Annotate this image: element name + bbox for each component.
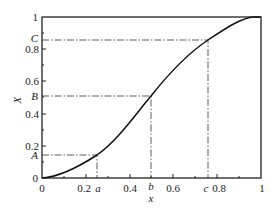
guide-b-B xyxy=(42,96,151,178)
label-C: C xyxy=(31,32,39,44)
y-tick-1: 1 xyxy=(33,11,39,23)
label-A: A xyxy=(30,149,38,161)
guide-a-A xyxy=(42,155,97,178)
x-axis-title: x xyxy=(148,192,154,204)
x-tick-0.4: 0.4 xyxy=(123,182,137,194)
label-b: b xyxy=(148,180,154,192)
label-a: a xyxy=(95,182,101,194)
y-axis-title: X xyxy=(11,95,23,104)
label-B: B xyxy=(31,90,38,102)
y-tick-0.6: 0.6 xyxy=(25,75,39,87)
y-tick-0: 0 xyxy=(33,172,39,184)
x-tick-0: 0 xyxy=(39,182,45,194)
cdf-chart: 0 0.2 0.4 0.6 0.8 1 0 0.2 0.4 0.6 0.8 1 … xyxy=(0,0,279,210)
x-tick-0.8: 0.8 xyxy=(212,182,226,194)
y-tick-0.4: 0.4 xyxy=(25,108,39,120)
label-c: c xyxy=(204,182,209,194)
x-tick-0.2: 0.2 xyxy=(77,182,91,194)
cdf-curve xyxy=(42,17,261,178)
x-tick-1: 1 xyxy=(259,182,265,194)
plot-frame xyxy=(42,17,261,178)
y-tick-0.8: 0.8 xyxy=(25,43,39,55)
x-tick-0.6: 0.6 xyxy=(166,182,180,194)
